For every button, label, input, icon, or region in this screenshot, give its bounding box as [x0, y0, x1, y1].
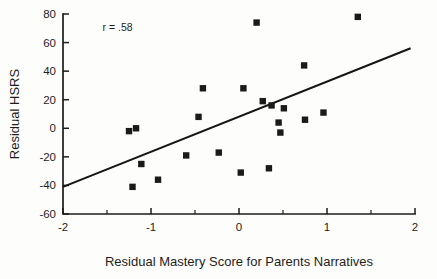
data-point-marker: [260, 98, 266, 104]
data-point-marker: [281, 105, 287, 111]
data-point-marker: [133, 125, 139, 131]
y-tick-label: 40: [43, 65, 56, 77]
data-point-marker: [266, 165, 272, 171]
y-tick-label: 60: [43, 37, 56, 49]
regression-line-path: [63, 48, 411, 187]
data-point-marker: [195, 114, 201, 120]
data-point-marker: [155, 177, 161, 183]
y-axis-title: Residual HSRS: [7, 69, 22, 160]
correlation-annotation: r = .58: [103, 21, 133, 33]
data-point-marker: [355, 14, 361, 20]
plot-canvas: 806040200-20-40-60-2-1012 r = .58 Residu…: [0, 0, 437, 279]
y-tick-label: 0: [50, 122, 56, 134]
data-point-marker: [275, 119, 281, 125]
data-point-marker: [268, 102, 274, 108]
data-point-marker: [253, 19, 259, 25]
scatter-plot-figure: 806040200-20-40-60-2-1012 r = .58 Residu…: [0, 0, 437, 279]
regression-line: [63, 48, 411, 187]
y-tick-label: 20: [43, 94, 56, 106]
data-point-marker: [240, 85, 246, 91]
data-point-marker: [301, 62, 307, 68]
axes: [63, 14, 415, 214]
axis-frame: [63, 14, 415, 214]
x-tick-label: 2: [412, 221, 418, 233]
data-point-marker: [277, 129, 283, 135]
x-tick-label: 1: [324, 221, 330, 233]
data-point-marker: [183, 152, 189, 158]
data-point-marker: [320, 109, 326, 115]
axis-ticks: [63, 14, 415, 214]
axis-titles: Residual Mastery Score for Parents Narra…: [7, 69, 374, 269]
y-tick-label: -20: [39, 151, 56, 163]
data-point-marker: [126, 128, 132, 134]
data-point-marker: [138, 161, 144, 167]
x-tick-label: -2: [58, 221, 68, 233]
data-points: [126, 14, 361, 190]
data-point-marker: [238, 169, 244, 175]
x-tick-label: -1: [146, 221, 156, 233]
y-tick-label: 80: [43, 8, 56, 20]
data-point-marker: [216, 149, 222, 155]
data-point-marker: [302, 117, 308, 123]
y-tick-label: -40: [39, 179, 56, 191]
x-axis-title: Residual Mastery Score for Parents Narra…: [105, 254, 374, 269]
x-tick-label: 0: [236, 221, 242, 233]
data-point-marker: [200, 85, 206, 91]
y-tick-label: -60: [39, 208, 56, 220]
data-point-marker: [129, 184, 135, 190]
correlation-text: r = .58: [103, 21, 133, 33]
